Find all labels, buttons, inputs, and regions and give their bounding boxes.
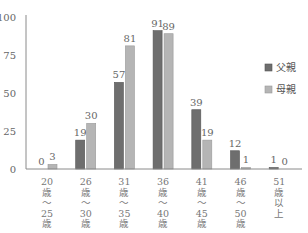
bar-group: 3919 [190,97,214,169]
y-axis: 0255075100 [0,12,26,175]
value-label: 1 [271,154,277,165]
bar-father [76,140,85,169]
value-label: 81 [124,33,137,44]
bar-group: 5781 [113,33,137,169]
x-axis: 20歳〜25歳26歳〜30歳31歳〜35歳36歳〜40歳41歳〜45歳46歳〜5… [26,169,302,229]
value-label: 19 [201,127,214,138]
y-tick-label: 0 [10,164,16,175]
value-label: 12 [229,138,242,149]
bars: 03193057819189391912110 [38,18,288,169]
bar-group: 121 [229,138,251,169]
y-tick-label: 25 [3,126,16,137]
bar-chart: 0255075100 03193057819189391912110 20歳〜2… [0,0,308,233]
value-label: 1 [243,154,249,165]
category-label: 41歳〜45歳 [196,176,208,229]
bar-group: 1930 [74,110,98,169]
value-label: 0 [38,156,44,167]
y-tick-label: 75 [3,50,16,61]
bar-father [114,82,123,169]
value-label: 0 [282,156,288,167]
bar-mother [164,34,173,169]
bar-mother [203,140,212,169]
category-label: 46歳〜50歳 [234,176,246,229]
value-label: 89 [162,21,175,32]
category-label: 26歳〜30歳 [80,176,92,229]
category-label: 20歳〜25歳 [41,176,53,229]
value-label: 39 [190,97,203,108]
bar-father [192,110,201,169]
category-label: 36歳〜40歳 [157,176,169,229]
legend-label: 母親 [276,83,296,95]
legend-label: 父親 [276,61,296,73]
value-label: 3 [49,151,55,162]
category-label: 51歳以上 [273,176,285,219]
bar-mother [125,46,134,169]
legend: 父親母親 [265,61,296,95]
bar-group: 9189 [151,18,175,169]
value-label: 57 [113,69,126,80]
value-label: 19 [74,127,87,138]
bar-group: 03 [38,151,57,169]
legend-swatch-father [265,64,272,71]
bar-father [231,151,240,169]
bar-group: 10 [269,154,288,169]
bar-mother [48,164,57,169]
y-tick-label: 100 [0,12,16,23]
bar-father [153,31,162,169]
y-tick-label: 50 [3,88,16,99]
legend-swatch-mother [265,86,272,93]
bar-mother [87,123,96,169]
category-label: 31歳〜35歳 [118,176,130,229]
value-label: 30 [85,110,98,121]
